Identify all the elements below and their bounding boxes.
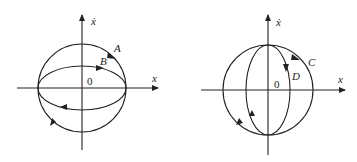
label-A: A bbox=[113, 42, 121, 54]
label-D: D bbox=[291, 70, 300, 82]
left-phase-portrait: A B 0 x ẋ bbox=[17, 15, 158, 150]
left-y-label: ẋ bbox=[90, 15, 96, 27]
right-y-label: ẋ bbox=[275, 16, 281, 28]
left-origin-label: 0 bbox=[87, 75, 93, 87]
right-x-label: x bbox=[337, 73, 343, 85]
arrow-C-lower-icon bbox=[236, 118, 243, 125]
right-origin-label: 0 bbox=[274, 78, 280, 90]
right-phase-portrait: C D 0 x ẋ bbox=[201, 15, 345, 155]
label-C: C bbox=[308, 56, 316, 68]
phase-portraits: A B 0 x ẋ C D 0 x ẋ bbox=[0, 0, 357, 162]
arrow-B-lower-icon bbox=[60, 104, 67, 110]
label-B: B bbox=[100, 55, 107, 67]
arrow-D-lower-icon bbox=[249, 110, 255, 116]
left-x-label: x bbox=[151, 72, 157, 84]
